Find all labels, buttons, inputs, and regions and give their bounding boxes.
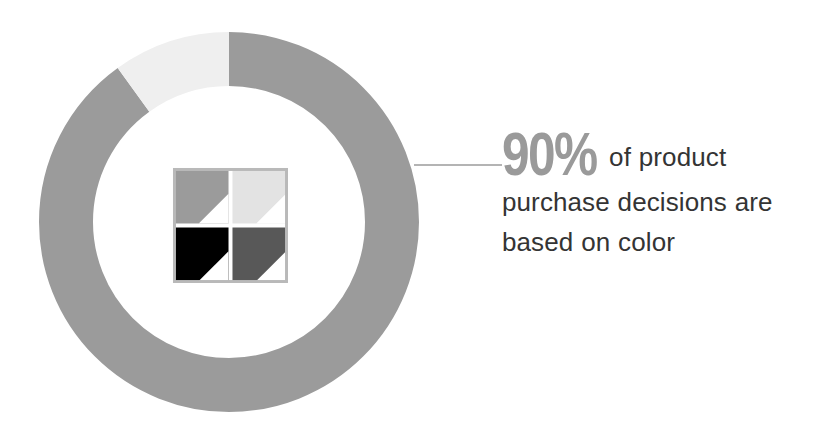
stat-percentage: 90% [502,126,596,182]
brand-logo-icon [172,167,289,284]
logo-quadrant-top-right [232,170,286,224]
callout-block: 90%of productpurchase decisions arebased… [502,126,820,262]
callout-line-2: purchase decisions are [502,187,773,217]
callout-line-1: of product [609,142,726,172]
four-square-swatch-icon [172,167,289,284]
callout-paragraph: 90%of productpurchase decisions arebased… [502,126,820,262]
logo-quadrant-bottom-left [175,227,229,281]
callout-line-3: based on color [502,227,675,257]
infographic-canvas: 90%of productpurchase decisions arebased… [0,0,831,436]
logo-quadrant-bottom-right [232,227,286,281]
callout-connector-line [414,164,502,166]
logo-quadrant-top-left [175,170,229,224]
